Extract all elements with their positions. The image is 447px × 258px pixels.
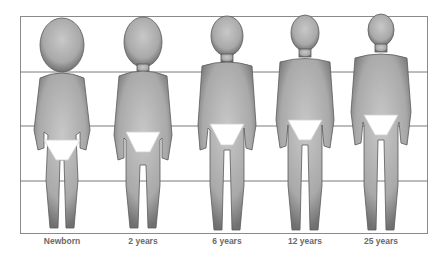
figure-2-years [114,17,172,228]
label-25-years: 25 years [346,236,416,246]
body-proportions-diagram: Newborn 2 years 6 years 12 years 25 year… [0,0,447,258]
label-12-years: 12 years [270,236,340,246]
figure-25-years [351,14,411,230]
label-newborn: Newborn [27,236,97,246]
figure-12-years [276,15,334,230]
label-6-years: 6 years [192,236,262,246]
figure-6-years [198,16,256,230]
figure-newborn [34,18,90,228]
proportion-grid [0,0,447,258]
label-2-years: 2 years [108,236,178,246]
